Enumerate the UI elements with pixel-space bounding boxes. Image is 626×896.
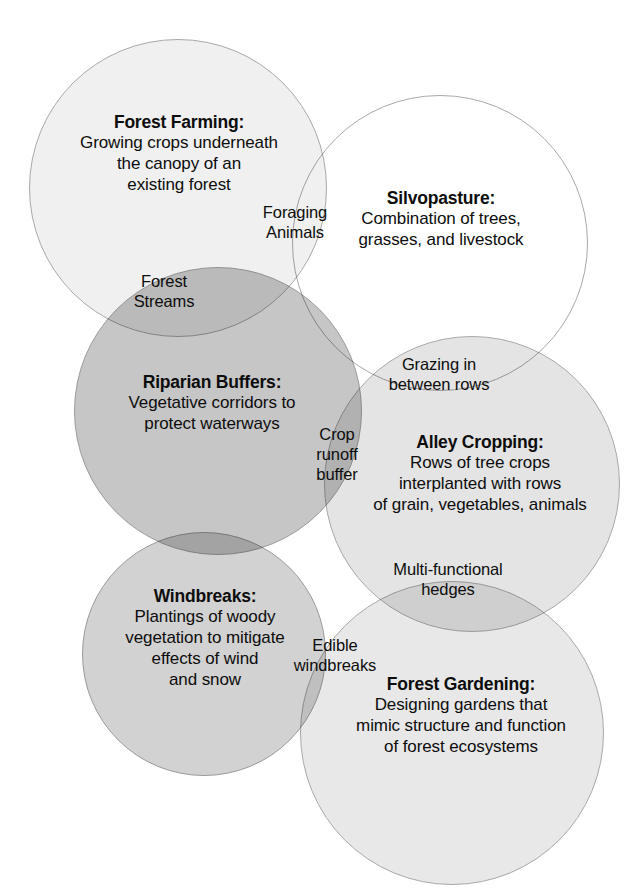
venn-diagram: Forest Farming: Growing crops underneath… bbox=[0, 0, 626, 896]
overlap-edible-windbreaks-line2: windbreaks bbox=[294, 656, 376, 674]
overlap-label-foraging-animals: Foraging Animals bbox=[245, 203, 345, 243]
label-alley-cropping-title: Alley Cropping: bbox=[337, 432, 623, 453]
label-forest-farming-line3: existing forest bbox=[36, 175, 322, 196]
overlap-multi-hedges-line2: hedges bbox=[421, 580, 475, 598]
label-alley-cropping-line3: of grain, vegetables, animals bbox=[337, 495, 623, 516]
label-forest-gardening-title: Forest Gardening: bbox=[313, 674, 609, 695]
label-silvopasture-line1: Combination of trees, bbox=[315, 209, 567, 230]
label-alley-cropping-line1: Rows of tree crops bbox=[337, 453, 623, 474]
label-forest-farming-line2: the canopy of an bbox=[36, 154, 322, 175]
label-silvopasture: Silvopasture: Combination of trees, gras… bbox=[315, 188, 567, 251]
overlap-forest-streams-line1: Forest bbox=[141, 272, 187, 290]
overlap-label-edible-windbreaks: Edible windbreaks bbox=[273, 636, 397, 676]
venn-label-layer: Forest Farming: Growing crops underneath… bbox=[0, 0, 626, 896]
overlap-multi-hedges-line1: Multi-functional bbox=[393, 560, 502, 578]
overlap-label-multi-functional-hedges: Multi-functional hedges bbox=[368, 560, 528, 600]
overlap-label-crop-runoff-buffer: Crop runoff buffer bbox=[299, 425, 375, 484]
label-riparian-buffers-title: Riparian Buffers: bbox=[72, 372, 352, 393]
label-windbreaks-line1: Plantings of woody bbox=[62, 607, 348, 628]
label-forest-gardening-line2: mimic structure and function bbox=[313, 716, 609, 737]
label-alley-cropping-line2: interplanted with rows bbox=[337, 474, 623, 495]
label-forest-gardening-line1: Designing gardens that bbox=[313, 695, 609, 716]
overlap-crop-runoff-line1: Crop bbox=[319, 425, 354, 443]
overlap-grazing-line1: Grazing in bbox=[402, 355, 476, 373]
overlap-grazing-line2: between rows bbox=[389, 375, 490, 393]
label-silvopasture-line2: grasses, and livestock bbox=[315, 230, 567, 251]
overlap-crop-runoff-line2: runoff bbox=[316, 445, 357, 463]
overlap-label-grazing-between-rows: Grazing in between rows bbox=[364, 355, 514, 395]
overlap-label-forest-streams: Forest Streams bbox=[110, 272, 218, 312]
overlap-crop-runoff-line3: buffer bbox=[316, 465, 357, 483]
label-alley-cropping: Alley Cropping: Rows of tree crops inter… bbox=[337, 432, 623, 516]
overlap-forest-streams-line2: Streams bbox=[134, 292, 195, 310]
label-windbreaks-title: Windbreaks: bbox=[62, 586, 348, 607]
label-forest-farming-line1: Growing crops underneath bbox=[36, 133, 322, 154]
overlap-edible-windbreaks-line1: Edible bbox=[312, 636, 357, 654]
label-riparian-buffers-line1: Vegetative corridors to bbox=[72, 393, 352, 414]
label-forest-gardening: Forest Gardening: Designing gardens that… bbox=[313, 674, 609, 758]
label-forest-gardening-line3: of forest ecosystems bbox=[313, 737, 609, 758]
label-silvopasture-title: Silvopasture: bbox=[315, 188, 567, 209]
label-forest-farming: Forest Farming: Growing crops underneath… bbox=[36, 112, 322, 196]
overlap-foraging-animals-line1: Foraging bbox=[263, 203, 327, 221]
label-forest-farming-title: Forest Farming: bbox=[36, 112, 322, 133]
overlap-foraging-animals-line2: Animals bbox=[266, 223, 324, 241]
